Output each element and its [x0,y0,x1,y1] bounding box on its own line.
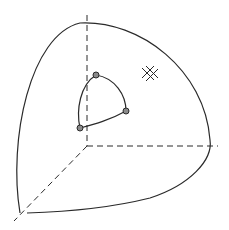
octant-surface-outline [17,23,210,213]
spherical-triangle [79,75,126,128]
vertex-right-dot [123,108,129,114]
vertex-left-dot [77,125,83,131]
vertex-top-dot [93,72,99,78]
spherical-triangle-diagram [0,0,229,230]
cross-hatch-icon [142,66,158,81]
